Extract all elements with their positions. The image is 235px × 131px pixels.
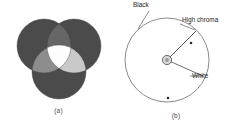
chroma-dot-upper-right	[190, 42, 193, 45]
panel-b: Black High chroma White (b)	[117, 0, 235, 131]
black-label: Black	[133, 2, 149, 9]
panel-a-caption: (a)	[0, 107, 117, 114]
black-leader-line	[138, 11, 149, 29]
center-gray-point-inner	[165, 58, 169, 62]
white-label: White	[192, 73, 208, 80]
high-chroma-radius	[167, 31, 196, 60]
chroma-dot-bottom	[167, 97, 170, 100]
panel-a: (a)	[0, 0, 117, 131]
figure-container: (a) Black High chroma White (b)	[0, 0, 235, 131]
panel-b-caption: (b)	[117, 112, 235, 119]
high-chroma-label: High chroma	[182, 17, 218, 24]
